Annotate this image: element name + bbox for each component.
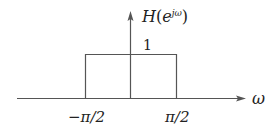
frequency-response-diagram: H(ejω) 1 ω −π/2 π/2 xyxy=(0,0,278,132)
y-label-exponent: jω xyxy=(172,8,182,18)
x-axis-label: ω xyxy=(252,91,265,107)
level-label: 1 xyxy=(143,38,152,52)
y-label-func: H xyxy=(142,7,156,26)
tick-label-right: π/2 xyxy=(165,110,189,125)
y-label-base: e xyxy=(162,7,171,26)
tick-label-left: −π/2 xyxy=(68,110,105,125)
y-label-close-paren: ) xyxy=(182,7,188,26)
y-axis-label: H(ejω) xyxy=(142,9,188,25)
plot-svg xyxy=(0,0,278,132)
